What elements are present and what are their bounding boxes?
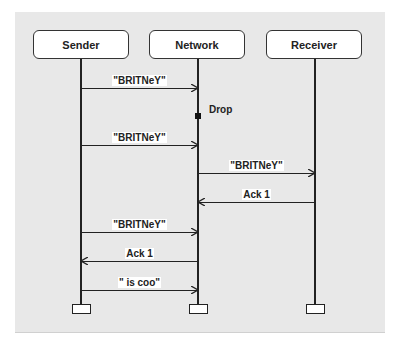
- message-label: Ack 1: [242, 189, 271, 200]
- arrowhead-left-icon: [197, 198, 205, 206]
- drop-marker-icon: [195, 113, 201, 119]
- message-arrow: Ack 1: [198, 202, 315, 203]
- arrowhead-right-icon: [191, 84, 199, 92]
- actor-label: Network: [175, 39, 218, 51]
- message-label: "BRITNeY": [112, 219, 166, 230]
- arrowhead-left-icon: [80, 257, 88, 265]
- message-arrow: "BRITNeY": [81, 145, 198, 146]
- message-arrow: "BRITNeY": [81, 232, 198, 233]
- lifeline-end-sender: [72, 304, 91, 314]
- actor-label: Sender: [62, 39, 99, 51]
- message-arrow: " is coo": [81, 290, 198, 291]
- lifeline-network: [197, 59, 199, 305]
- message-label: "BRITNeY": [229, 160, 283, 171]
- actor-receiver: Receiver: [266, 30, 362, 59]
- lifeline-sender: [80, 59, 82, 305]
- panel-bottom-edge: [15, 332, 385, 333]
- message-label: "BRITNeY": [112, 75, 166, 86]
- actor-label: Receiver: [291, 39, 337, 51]
- actor-sender: Sender: [33, 30, 129, 59]
- diagram-panel: [15, 12, 385, 332]
- actor-network: Network: [149, 30, 245, 59]
- message-label: "BRITNeY": [112, 132, 166, 143]
- arrowhead-right-icon: [308, 169, 316, 177]
- lifeline-end-network: [189, 304, 208, 314]
- message-arrow: "BRITNeY": [81, 88, 198, 89]
- message-arrow: Ack 1: [81, 261, 198, 262]
- drop-label: Drop: [209, 104, 232, 115]
- message-label: Ack 1: [125, 248, 154, 259]
- lifeline-end-receiver: [306, 304, 325, 314]
- message-label: " is coo": [118, 277, 161, 288]
- arrowhead-right-icon: [191, 286, 199, 294]
- arrowhead-right-icon: [191, 228, 199, 236]
- lifeline-receiver: [314, 59, 316, 305]
- arrowhead-right-icon: [191, 141, 199, 149]
- message-arrow: "BRITNeY": [198, 173, 315, 174]
